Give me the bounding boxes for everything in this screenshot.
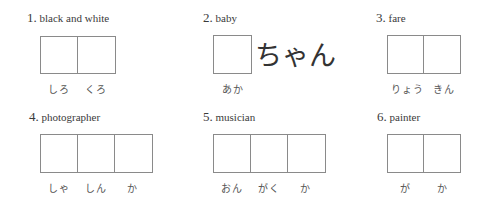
answer-boxes [40, 36, 116, 74]
item-label: fare [389, 12, 406, 24]
kanji-answer-box[interactable] [115, 135, 152, 172]
kanji-answer-box[interactable] [424, 135, 460, 172]
furigana-readings: りょう きん [387, 81, 461, 96]
item-title: 4. photographer [29, 109, 100, 125]
reading: か [287, 180, 324, 195]
item-title: 6. painter [377, 109, 420, 125]
answer-boxes [387, 35, 461, 74]
reading: か [114, 180, 151, 195]
furigana-readings: が か [387, 180, 461, 195]
item-title: 2. baby [203, 10, 237, 26]
kanji-answer-box[interactable] [41, 135, 78, 172]
item-number: 4. [29, 109, 39, 124]
hiragana-suffix: ちゃん [255, 34, 336, 73]
item-label: musician [216, 111, 256, 123]
item-label: photographer [42, 111, 101, 123]
reading: おん [213, 180, 250, 195]
answer-boxes [387, 134, 461, 173]
kanji-answer-box[interactable] [78, 135, 115, 172]
furigana-readings: しゃ しん か [40, 180, 151, 195]
furigana-readings: おん がく か [213, 180, 324, 195]
item-number: 1. [27, 10, 37, 25]
item-number: 6. [377, 109, 387, 124]
reading: しろ [40, 81, 77, 96]
kanji-answer-box[interactable] [214, 135, 251, 172]
reading: あか [214, 81, 251, 96]
item-title: 5. musician [203, 109, 255, 125]
reading: がく [250, 180, 287, 195]
item-title: 3. fare [376, 10, 406, 26]
kanji-answer-box[interactable] [41, 37, 78, 73]
reading: りょう [387, 81, 427, 96]
kanji-answer-box[interactable] [251, 135, 288, 172]
item-label: baby [216, 12, 237, 24]
reading: か [424, 180, 461, 195]
item-number: 2. [203, 10, 213, 25]
reading: しん [77, 180, 114, 195]
reading: きん [427, 81, 461, 96]
reading: しゃ [40, 180, 77, 195]
kanji-answer-box[interactable] [288, 135, 325, 172]
furigana-readings: しろ くろ [40, 81, 114, 96]
reading: くろ [77, 81, 114, 96]
kanji-answer-box[interactable] [388, 36, 424, 73]
kanji-answer-box[interactable] [388, 135, 424, 172]
kanji-answer-box[interactable] [78, 37, 115, 73]
item-number: 3. [376, 10, 386, 25]
furigana-readings: あか [214, 81, 251, 96]
item-label: painter [390, 111, 421, 123]
answer-boxes [213, 134, 326, 173]
item-label: black and white [40, 12, 110, 24]
kanji-answer-box[interactable] [424, 36, 460, 73]
reading: が [387, 180, 424, 195]
kanji-answer-box[interactable] [214, 36, 251, 73]
item-title: 1. black and white [27, 10, 109, 26]
answer-boxes [213, 35, 252, 74]
answer-boxes [40, 134, 153, 173]
item-number: 5. [203, 109, 213, 124]
